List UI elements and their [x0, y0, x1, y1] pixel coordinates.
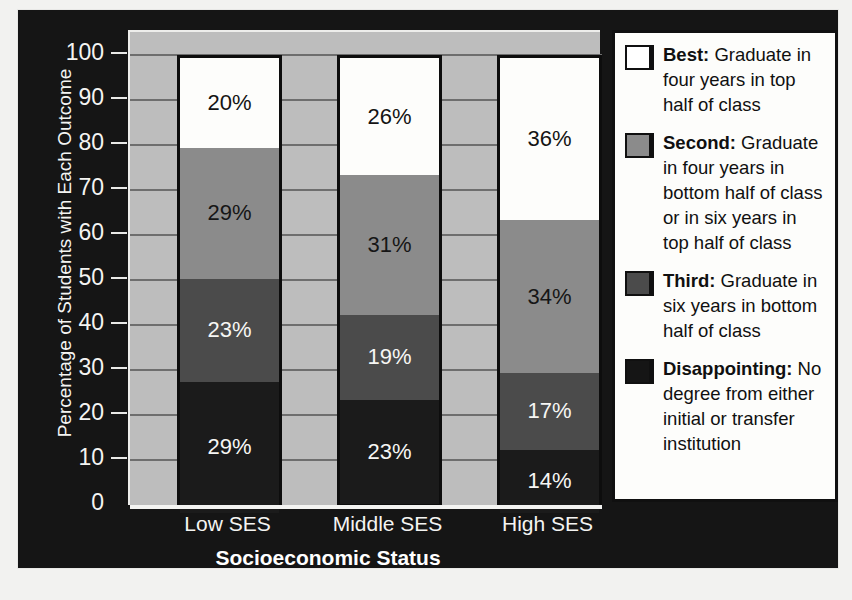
y-axis-tick [111, 277, 127, 279]
plot-area: 20%29%23%29%26%31%19%23%36%34%17%14% [130, 55, 602, 505]
x-axis-line [130, 505, 602, 509]
bar-segment-best[interactable]: 36% [500, 58, 599, 220]
legend-label-title: Second: [663, 132, 736, 153]
y-axis-tick [111, 187, 127, 189]
stacked-bar[interactable]: 36%34%17%14% [497, 55, 602, 505]
y-axis-tick [111, 322, 127, 324]
bar-segment-label: 20% [207, 90, 251, 116]
legend-swatch-second [625, 133, 654, 158]
bar-segment-second[interactable]: 31% [340, 175, 439, 315]
legend: Best: Graduate in four years in top half… [612, 30, 838, 502]
legend-swatch-best [625, 45, 654, 70]
plot-panel: 20%29%23%29%26%31%19%23%36%34%17%14% [128, 30, 600, 505]
legend-label-title: Disappointing: [663, 358, 792, 379]
y-axis-tick [111, 97, 127, 99]
bar-segment-best[interactable]: 26% [340, 58, 439, 175]
y-axis-tick [111, 412, 127, 414]
bar-segment-second[interactable]: 34% [500, 220, 599, 373]
y-axis-tick [111, 142, 127, 144]
bar-segment-second[interactable]: 29% [180, 148, 279, 279]
legend-item-third[interactable]: Third: Graduate in six years in bottom h… [625, 268, 825, 343]
bar-segment-label: 14% [527, 468, 571, 494]
bar-segment-label: 29% [207, 434, 251, 460]
bar-segment-label: 19% [367, 344, 411, 370]
chart-canvas: Percentage of Students with Each Outcome… [0, 0, 852, 600]
y-axis-tick-label: 40 [42, 311, 104, 334]
bar-segment-disappointing[interactable]: 29% [180, 382, 279, 513]
bar-segment-third[interactable]: 23% [180, 279, 279, 383]
y-axis-tick-label: 50 [42, 266, 104, 289]
y-axis-tick-label: 60 [42, 221, 104, 244]
legend-label: Second: Graduate in four years in bottom… [663, 130, 825, 255]
bar-segment-label: 34% [527, 284, 571, 310]
legend-label: Disappointing: No degree from either ini… [663, 356, 825, 456]
bar-segment-label: 31% [367, 232, 411, 258]
y-axis-tick-label: 30 [42, 356, 104, 379]
bar-segment-label: 17% [527, 398, 571, 424]
legend-item-second[interactable]: Second: Graduate in four years in bottom… [625, 130, 825, 255]
bar-segment-disappointing[interactable]: 14% [500, 450, 599, 513]
x-axis-tick-label: High SES [473, 512, 623, 536]
bar-segment-label: 23% [207, 317, 251, 343]
legend-label-title: Best: [663, 44, 709, 65]
legend-label: Third: Graduate in six years in bottom h… [663, 268, 825, 343]
bar-segment-third[interactable]: 19% [340, 315, 439, 401]
y-axis-tick-label: 20 [42, 401, 104, 424]
y-axis-tick-label: 0 [42, 491, 104, 514]
x-axis-tick-label: Low SES [153, 512, 303, 536]
bar-segment-label: 36% [527, 126, 571, 152]
legend-item-disappointing[interactable]: Disappointing: No degree from either ini… [625, 356, 825, 456]
bar-segment-third[interactable]: 17% [500, 373, 599, 450]
stacked-bar[interactable]: 20%29%23%29% [177, 55, 282, 505]
stacked-bar[interactable]: 26%31%19%23% [337, 55, 442, 505]
y-axis-tick [111, 367, 127, 369]
legend-swatch-disappointing [625, 359, 654, 384]
figure-frame: Percentage of Students with Each Outcome… [18, 10, 838, 568]
bar-segment-best[interactable]: 20% [180, 58, 279, 148]
x-axis-title: Socioeconomic Status [18, 546, 638, 570]
y-axis-tick-label: 100 [42, 41, 104, 64]
y-axis-tick-label: 70 [42, 176, 104, 199]
x-axis-tick-label: Middle SES [313, 512, 463, 536]
y-axis-tick [111, 232, 127, 234]
y-axis-tick [111, 457, 127, 459]
bar-segment-label: 26% [367, 104, 411, 130]
y-axis-tick-label: 10 [42, 446, 104, 469]
bar-segment-disappointing[interactable]: 23% [340, 400, 439, 504]
legend-item-best[interactable]: Best: Graduate in four years in top half… [625, 42, 825, 117]
y-axis-tick [111, 52, 127, 54]
legend-label-title: Third: [663, 270, 715, 291]
bar-segment-label: 29% [207, 200, 251, 226]
legend-swatch-third [625, 271, 654, 296]
bar-segment-label: 23% [367, 439, 411, 465]
y-axis-tick-label: 90 [42, 86, 104, 109]
legend-label: Best: Graduate in four years in top half… [663, 42, 825, 117]
y-axis-tick-label: 80 [42, 131, 104, 154]
